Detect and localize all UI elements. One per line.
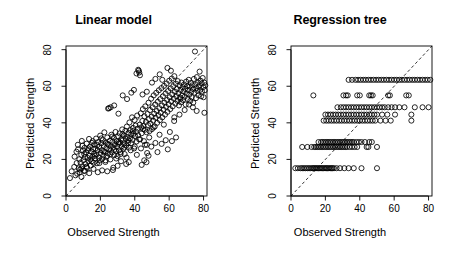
x-axis-label: Observed Strength [0, 226, 227, 238]
data-point [194, 108, 199, 113]
data-point [174, 135, 179, 140]
data-point [409, 112, 414, 117]
y-tick-label: 20 [266, 149, 280, 169]
data-point [138, 146, 143, 151]
x-tick-label: 60 [159, 203, 179, 214]
data-point [172, 115, 177, 120]
y-tick-label: 80 [41, 40, 55, 60]
data-point [79, 174, 84, 179]
data-point [378, 118, 383, 123]
data-points [293, 77, 433, 170]
data-point [392, 112, 397, 117]
x-tick-label: 40 [125, 203, 145, 214]
x-tick-label: 20 [90, 203, 110, 214]
data-point [127, 120, 132, 125]
data-point [140, 118, 145, 123]
data-point [102, 130, 107, 135]
data-point [169, 139, 174, 144]
data-point [160, 77, 165, 82]
data-point [108, 157, 113, 162]
y-tick-label: 60 [266, 76, 280, 96]
data-point [124, 97, 129, 102]
data-point [202, 110, 207, 115]
data-point [383, 118, 388, 123]
data-point [351, 166, 356, 171]
data-point [163, 138, 168, 143]
data-point [161, 122, 166, 127]
y-tick-label: 0 [266, 186, 280, 206]
data-point [105, 169, 110, 174]
data-point [153, 76, 158, 81]
data-point [420, 105, 425, 110]
data-point [402, 105, 407, 110]
data-point [311, 93, 316, 98]
data-point [409, 118, 414, 123]
data-point [79, 138, 84, 143]
y-axis-label: Predicted Strength [249, 78, 261, 169]
panel-linear-model: Linear model Predicted Strength Observed… [0, 0, 227, 263]
y-tick-label: 40 [266, 113, 280, 133]
y-tick-label: 20 [41, 149, 55, 169]
panel-regression-tree: Regression tree Predicted Strength Obser… [227, 0, 453, 263]
data-point [374, 166, 379, 171]
data-point [182, 107, 187, 112]
x-tick-label: 0 [56, 203, 76, 214]
data-point [374, 144, 379, 149]
data-point [426, 105, 431, 110]
identity-reference-line [291, 46, 432, 196]
y-tick-label: 80 [266, 40, 280, 60]
x-tick-label: 0 [281, 203, 301, 214]
y-tick-label: 0 [41, 186, 55, 206]
data-point [412, 105, 417, 110]
data-point [388, 118, 393, 123]
data-point [116, 111, 121, 116]
data-point [149, 144, 154, 149]
data-point [147, 135, 152, 140]
data-point [155, 150, 160, 155]
data-point [153, 140, 158, 145]
data-point [167, 129, 172, 134]
x-tick-label: 60 [384, 203, 404, 214]
data-point [67, 176, 72, 181]
data-point [385, 112, 390, 117]
data-point [165, 65, 170, 70]
x-tick-label: 80 [194, 203, 214, 214]
data-point [159, 141, 164, 146]
y-tick-label: 40 [41, 113, 55, 133]
data-point [134, 152, 139, 157]
data-point [380, 112, 385, 117]
data-point [120, 127, 125, 132]
x-tick-label: 40 [350, 203, 370, 214]
figure-root: Linear model Predicted Strength Observed… [0, 0, 453, 263]
x-axis-label: Observed Strength [227, 226, 453, 238]
data-point [359, 166, 364, 171]
data-point [157, 132, 162, 137]
data-point [144, 89, 149, 94]
y-tick-label: 60 [41, 76, 55, 96]
data-points [67, 49, 207, 181]
data-point [177, 112, 182, 117]
data-point [120, 93, 125, 98]
data-point [157, 72, 162, 77]
data-point [165, 147, 170, 152]
data-point [149, 96, 154, 101]
data-point [168, 68, 173, 73]
data-point [118, 159, 123, 164]
x-tick-label: 20 [315, 203, 335, 214]
data-point [197, 69, 202, 74]
y-axis-label: Predicted Strength [24, 78, 36, 169]
x-tick-label: 80 [419, 203, 439, 214]
data-point [72, 154, 77, 159]
data-point [300, 144, 305, 149]
data-point [192, 49, 197, 54]
